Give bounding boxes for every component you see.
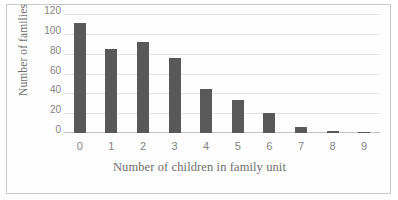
y-tick-label: 60: [35, 66, 61, 76]
x-axis-title: Number of children in family unit: [7, 160, 392, 175]
bar-slot: [222, 14, 254, 133]
bar-slot: [64, 14, 96, 133]
bar-slot: [317, 14, 349, 133]
bar: [263, 113, 275, 133]
bar-slot: [127, 14, 159, 133]
bar: [295, 127, 307, 133]
bar: [105, 49, 117, 133]
x-tick-label: 2: [127, 139, 159, 155]
plot-area: [64, 14, 380, 133]
bar: [327, 131, 339, 133]
bar: [74, 23, 86, 133]
bar: [200, 89, 212, 133]
x-tick-label: 8: [317, 139, 349, 155]
y-tick-label: 40: [35, 85, 61, 95]
y-tick-label: 20: [35, 105, 61, 115]
bar: [232, 100, 244, 133]
x-tick-label: 7: [285, 139, 317, 155]
x-tick-label: 9: [348, 139, 380, 155]
y-tick-label: 0: [35, 125, 61, 135]
bar: [358, 132, 370, 133]
x-tick-label: 4: [190, 139, 222, 155]
y-tick-label: 120: [35, 6, 61, 16]
y-axis-title: Number of families: [17, 0, 31, 100]
bar: [137, 42, 149, 133]
x-tick-label: 0: [64, 139, 96, 155]
y-tick-label: 80: [35, 46, 61, 56]
chart-figure: Number of families 020406080100120 01234…: [6, 4, 391, 194]
bar-series: [64, 14, 380, 133]
bar-slot: [190, 14, 222, 133]
bar-slot: [348, 14, 380, 133]
bar-slot: [254, 14, 286, 133]
x-tick-label: 6: [254, 139, 286, 155]
y-tick-label: 100: [35, 26, 61, 36]
bar-slot: [285, 14, 317, 133]
x-tick-label: 3: [159, 139, 191, 155]
x-tick-label: 5: [222, 139, 254, 155]
bar-slot: [96, 14, 128, 133]
x-tick-label: 1: [96, 139, 128, 155]
bar-slot: [159, 14, 191, 133]
y-axis-tick-labels: 020406080100120: [35, 8, 61, 133]
x-axis-tick-labels: 0123456789: [64, 139, 380, 155]
bar: [169, 58, 181, 133]
